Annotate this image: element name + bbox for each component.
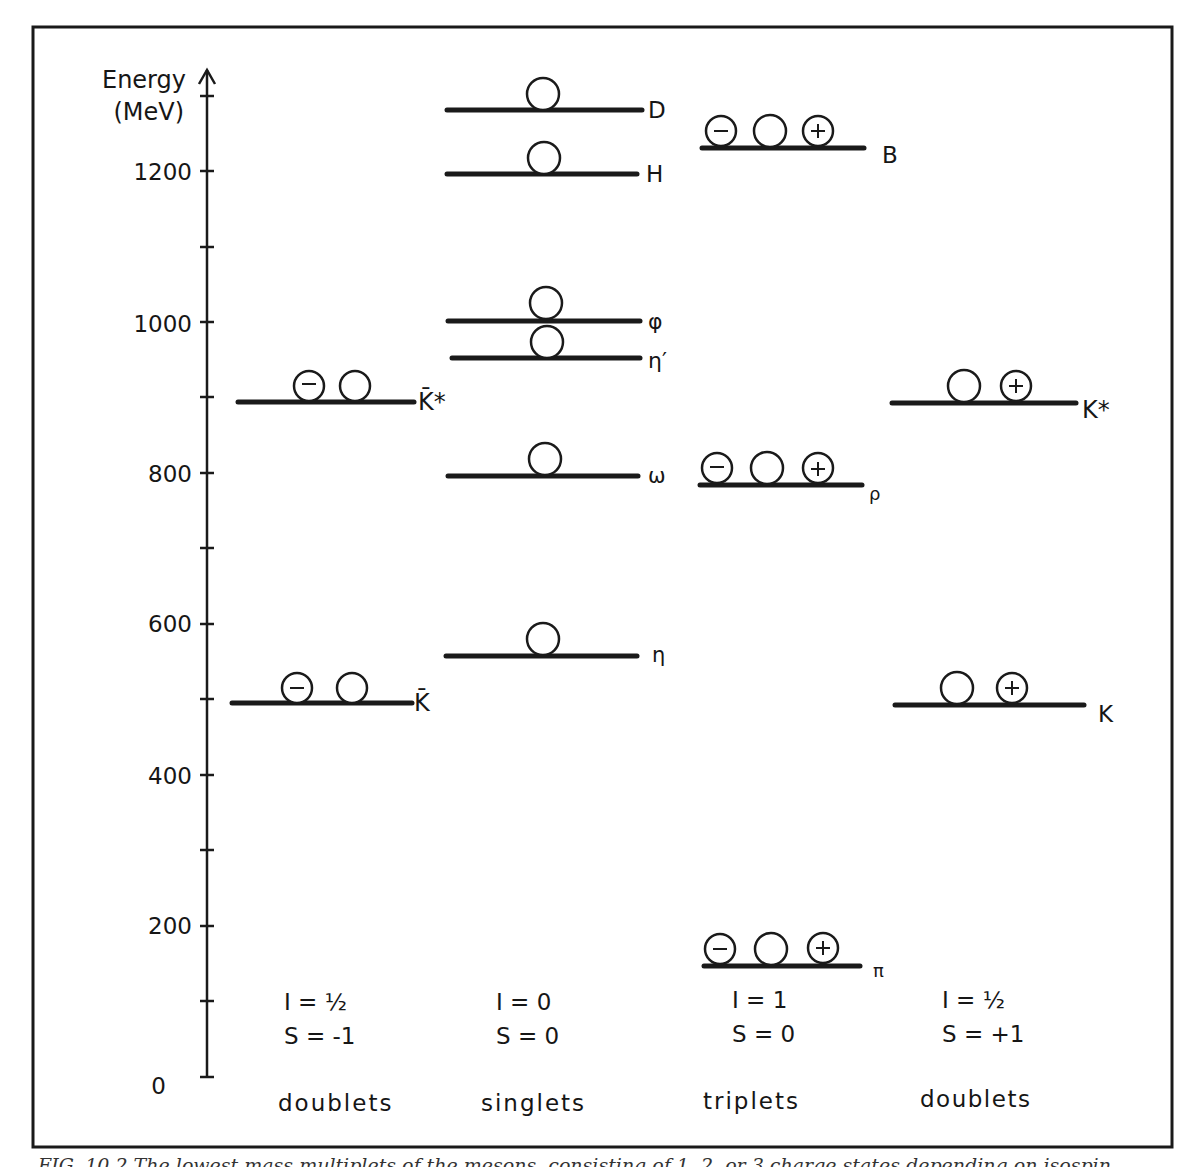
level-rho: ρ [700,452,880,504]
tick-label-1000: 1000 [133,311,192,337]
column-isospin-doublets-left: I = ½ [284,989,347,1015]
column-strangeness-doublets-right: S = +1 [942,1021,1024,1047]
charge-state-neutral [529,443,561,475]
level-b: B [702,115,898,168]
column-label-doublets-right: doublets [920,1086,1031,1112]
column-strangeness-triplets: S = 0 [732,1021,795,1047]
charge-state-neutral [941,672,973,704]
column-isospin-singlets: I = 0 [496,989,551,1015]
level-label-kbar-star: K̄* [418,387,446,416]
column-isospin-doublets-right: I = ½ [942,987,1005,1013]
tick-label-200: 200 [148,913,192,939]
tick-label-400: 400 [148,763,192,789]
level-eta: η [446,623,665,667]
tick-label-600: 600 [148,611,192,637]
level-label-b: B [882,142,898,168]
level-label-pi: π [873,960,884,981]
level-label-k-star: K* [1082,396,1110,424]
level-pi: π [704,933,884,981]
level-eta-prime: η′ [452,326,667,373]
level-h: H [447,142,663,187]
axis-tick-labels: 0 200 400 600 800 1000 1200 [133,159,192,1099]
column-label-triplets: triplets [703,1088,800,1114]
energy-axis [199,70,215,1078]
tick-label-1200: 1200 [133,159,192,185]
axis-title-unit: (MeV) [113,98,184,126]
charge-state-minus [294,371,324,401]
level-k-star: K* [892,370,1110,424]
level-k: K [895,672,1114,727]
meson-multiplet-diagram: Energy (MeV) 0 200 400 600 800 1000 1200 [0,0,1200,1167]
level-label-eta-prime: η′ [648,348,667,373]
level-omega: ω [448,443,666,488]
charge-state-neutral [751,452,783,484]
level-d: D [447,78,666,123]
column-strangeness-doublets-left: S = -1 [284,1023,355,1049]
charge-state-neutral [337,673,367,703]
column-strangeness-singlets: S = 0 [496,1023,559,1049]
level-label-k: K [1098,701,1114,727]
level-label-h: H [646,161,663,187]
figure-caption: FIG. 10.2 The lowest mass multiplets of … [38,1152,1178,1167]
charge-state-neutral [948,370,980,402]
level-label-eta: η [652,643,665,667]
charge-state-neutral [530,287,562,319]
level-kbar-star: K̄* [238,371,446,416]
level-label-phi: φ [648,309,663,334]
axis-title-energy: Energy [102,66,186,94]
charge-state-neutral [527,78,559,110]
level-label-kbar: K̄ [414,688,431,717]
charge-state-neutral [527,623,559,655]
charge-state-neutral [755,933,787,965]
level-kbar: K̄ [232,673,431,717]
level-label-rho: ρ [869,483,880,504]
tick-label-800: 800 [148,461,192,487]
charge-state-neutral [528,142,560,174]
level-label-d: D [648,97,666,123]
figure-frame [33,27,1172,1147]
charge-state-neutral [754,115,786,147]
column-label-doublets-left: doublets [278,1090,393,1116]
charge-state-neutral [340,371,370,401]
column-isospin-triplets: I = 1 [732,987,787,1013]
level-label-omega: ω [648,464,666,488]
column-label-singlets: singlets [481,1090,586,1116]
charge-state-neutral [531,326,563,358]
tick-label-0: 0 [151,1073,166,1099]
